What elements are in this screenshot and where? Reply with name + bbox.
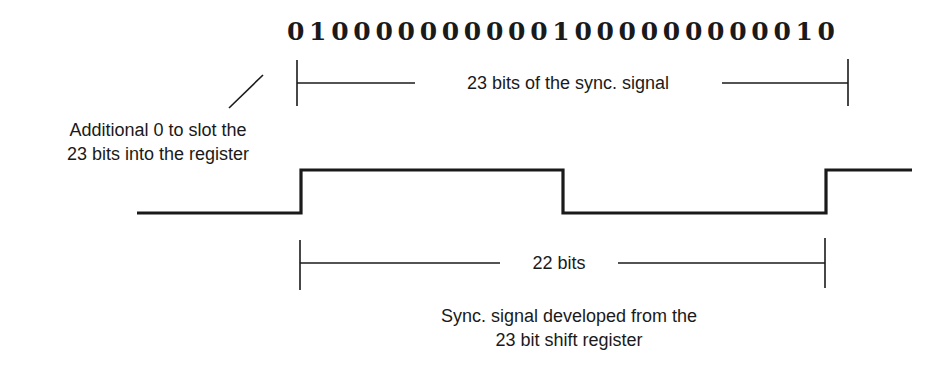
- dimension-23-bits: 23 bits of the sync. signal: [297, 59, 848, 106]
- sync-signal-diagram: 0 1 0 0 0 0 0 0 0 0 0 0 1 0 0 0 0 0 0 0 …: [0, 0, 943, 366]
- annotation-additional-zero: Additional 0 to slot the 23 bits into th…: [67, 120, 249, 164]
- dim-top-label: 23 bits of the sync. signal: [467, 73, 669, 93]
- sync-waveform: [137, 170, 912, 213]
- bit-sequence: 0 1 0 0 0 0 0 0 0 0 0 0 1 0 0 0 0 0 0 0 …: [287, 17, 835, 46]
- annotation-line-2: 23 bits into the register: [67, 144, 249, 164]
- caption-line-1: Sync. signal developed from the: [441, 306, 697, 326]
- caption: Sync. signal developed from the 23 bit s…: [441, 306, 697, 350]
- caption-line-2: 23 bit shift register: [495, 330, 642, 350]
- annotation-line-1: Additional 0 to slot the: [69, 120, 246, 140]
- annotation-leader-line: [229, 75, 263, 108]
- dimension-22-bits: 22 bits: [300, 238, 825, 290]
- dim-bottom-label: 22 bits: [532, 253, 585, 273]
